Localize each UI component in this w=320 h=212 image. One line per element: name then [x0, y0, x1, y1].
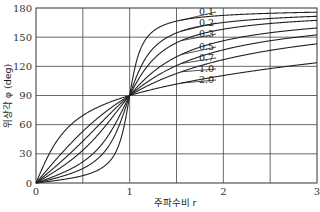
x-tick-label: 1 — [126, 186, 132, 197]
y-tick-label: 60 — [19, 119, 32, 130]
x-tick-labels: 0123 — [33, 186, 320, 197]
curve-label: 1.0 — [199, 63, 214, 74]
x-axis-title: 주파수비 r — [154, 197, 197, 208]
x-tick-label: 3 — [314, 186, 320, 197]
y-tick-label: 90 — [19, 90, 32, 101]
curve-labels: 0.10.20.30.50.71.02.0 — [199, 6, 214, 85]
curve-label: 2.0 — [199, 74, 214, 85]
curve-label: 0.2 — [199, 17, 214, 28]
grid-lines — [36, 8, 317, 183]
y-tick-label: 0 — [26, 178, 32, 189]
y-tick-label: 150 — [13, 32, 32, 43]
y-tick-label: 120 — [13, 61, 32, 72]
phase-angle-chart: 0306090120150180 0123 0.10.20.30.50.71.0… — [0, 0, 320, 212]
y-tick-label: 180 — [13, 3, 32, 14]
curve-label: 0.1 — [199, 6, 214, 17]
y-axis-title: 위상각 φ (deg) — [2, 64, 13, 129]
x-tick-label: 0 — [33, 186, 39, 197]
curve-label: 0.3 — [199, 28, 214, 39]
x-tick-label: 2 — [220, 186, 226, 197]
curve-label: 0.5 — [199, 41, 214, 52]
y-tick-labels: 0306090120150180 — [13, 3, 32, 189]
curve-label: 0.7 — [199, 52, 214, 63]
y-tick-label: 30 — [19, 148, 32, 159]
